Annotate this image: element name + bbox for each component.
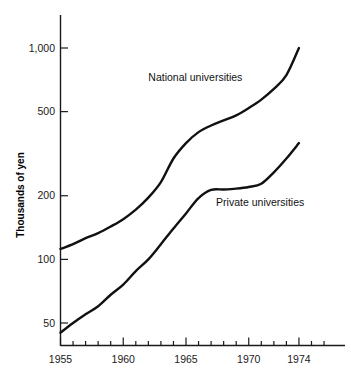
series-line-private — [61, 143, 299, 333]
y-tick-label: 500 — [37, 105, 55, 117]
line-chart-svg: 1,00050020010050 Thousands of yen 195519… — [0, 0, 351, 387]
y-axis-ticks — [61, 48, 69, 323]
series-label-national: National universities — [148, 71, 242, 83]
y-tick-label: 200 — [37, 189, 55, 201]
chart-container: 1,00050020010050 Thousands of yen 195519… — [0, 0, 351, 387]
y-tick-label: 100 — [37, 253, 55, 265]
x-tick-label: 1955 — [49, 353, 73, 365]
x-axis-ticks — [61, 338, 325, 346]
x-tick-label: 1965 — [174, 353, 198, 365]
series-label-private: Private universities — [216, 196, 304, 208]
x-axis-group: 19551960196519701974 — [49, 338, 345, 366]
y-axis-tick-labels: 1,00050020010050 — [29, 42, 55, 329]
x-tick-label: 1960 — [112, 353, 136, 365]
x-tick-label: 1974 — [287, 353, 311, 365]
y-tick-label: 1,000 — [29, 42, 55, 54]
series-lines-group — [61, 48, 299, 333]
series-annotations-group: National universitiesPrivate universitie… — [148, 71, 304, 209]
x-tick-label: 1970 — [237, 353, 261, 365]
y-axis-group: 1,00050020010050 Thousands of yen — [15, 15, 68, 346]
x-axis-tick-labels: 19551960196519701974 — [49, 353, 311, 365]
y-axis-title: Thousands of yen — [15, 152, 26, 238]
y-tick-label: 50 — [43, 317, 55, 329]
